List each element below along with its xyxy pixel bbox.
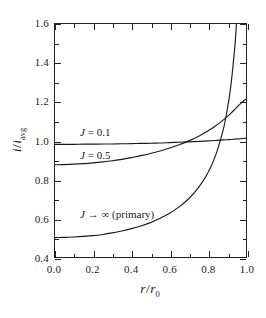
x-tick-minor-bottom [190,254,191,258]
x-tick-minor-bottom [229,254,230,258]
y-axis-subscript: avg [17,128,27,140]
x-tick-major-top [171,24,172,30]
x-tick-minor-top [113,24,114,28]
curve-label-text-1: = 0.1 [85,126,110,138]
y-tick-major-left [55,102,61,103]
y-tick-minor-left [55,200,59,201]
y-tick-major-right [240,220,246,221]
y-tick-minor-left [55,44,59,45]
y-tick-label: 1.2 [22,95,49,107]
x-tick-label: 1.0 [240,263,254,275]
x-tick-minor-bottom [74,254,75,258]
y-tick-minor-right [243,44,247,45]
plot-area: J = 0.1 J = 0.5 J → ∞ (primary) [54,23,247,258]
y-tick-major-right [240,259,246,260]
y-tick-minor-left [55,239,59,240]
x-tick-major-top [209,24,210,30]
x-tick-major-top [248,24,249,30]
x-tick-major-bottom [55,251,56,257]
x-tick-minor-top [229,24,230,28]
y-axis-title: i/iavg [9,128,27,153]
y-tick-major-right [240,181,246,182]
x-tick-label: 0.0 [47,263,61,275]
curve-label-j-0-1: J = 0.1 [80,126,110,138]
curve-label-j-0-5: J = 0.5 [80,149,110,161]
curve-label-text-2: = 0.5 [85,149,110,161]
x-tick-major-bottom [209,251,210,257]
y-tick-minor-right [243,161,247,162]
y-tick-label: 0.6 [22,213,49,225]
x-tick-label: 0.8 [201,263,215,275]
x-tick-label: 0.4 [124,263,138,275]
x-axis-subscript: 0 [156,289,160,299]
figure-container: J = 0.1 J = 0.5 J → ∞ (primary) 0.00.20.… [0,0,266,318]
y-tick-minor-right [243,239,247,240]
curves-svg [55,24,246,257]
y-tick-label: 1.6 [22,17,49,29]
x-tick-minor-top [190,24,191,28]
y-tick-major-right [240,142,246,143]
y-axis-denominator: i [9,140,24,144]
y-tick-label: 1.4 [22,56,49,68]
y-tick-major-right [240,63,246,64]
curve-label-j-infinity-primary: J → ∞ (primary) [80,208,154,220]
y-tick-minor-left [55,83,59,84]
y-tick-major-left [55,181,61,182]
x-tick-major-bottom [94,251,95,257]
curve-path-1 [55,138,246,144]
y-tick-minor-right [243,200,247,201]
y-tick-label: 0.4 [22,252,49,264]
y-axis-slash: / [9,144,24,149]
y-tick-major-left [55,259,61,260]
x-axis-title: r/r0 [140,281,160,299]
y-tick-minor-left [55,122,59,123]
x-tick-label: 0.2 [85,263,99,275]
curve-label-text-3: → ∞ (primary) [85,208,154,220]
x-tick-major-bottom [132,251,133,257]
y-tick-minor-right [243,83,247,84]
x-tick-minor-top [152,24,153,28]
x-tick-label: 0.6 [163,263,177,275]
y-tick-minor-right [243,122,247,123]
y-tick-major-left [55,142,61,143]
y-tick-major-left [55,220,61,221]
x-tick-minor-bottom [152,254,153,258]
x-tick-minor-bottom [113,254,114,258]
y-tick-major-left [55,24,61,25]
y-tick-major-right [240,24,246,25]
x-tick-major-bottom [248,251,249,257]
y-tick-major-left [55,63,61,64]
x-tick-major-top [132,24,133,30]
y-tick-label: 0.8 [22,174,49,186]
x-tick-major-bottom [171,251,172,257]
curve-layer [55,24,246,257]
x-tick-major-top [94,24,95,30]
y-tick-major-right [240,102,246,103]
y-tick-minor-left [55,161,59,162]
y-axis-numerator: i [9,149,24,153]
x-tick-minor-top [74,24,75,28]
